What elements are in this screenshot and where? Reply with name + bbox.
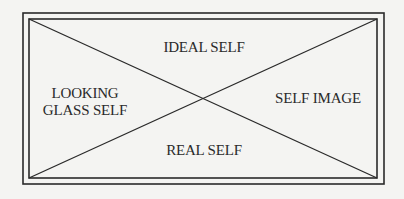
label-ideal-self: IDEAL SELF: [148, 39, 260, 56]
label-self-image: SELF IMAGE: [258, 90, 378, 107]
label-looking-glass-self: LOOKING GLASS SELF: [30, 85, 140, 119]
label-real-self: REAL SELF: [148, 142, 260, 159]
self-concept-diagram: IDEAL SELF LOOKING GLASS SELF SELF IMAGE…: [0, 0, 404, 199]
label-looking-glass-self-line2: GLASS SELF: [30, 102, 140, 119]
label-looking-glass-self-line1: LOOKING: [30, 85, 140, 102]
